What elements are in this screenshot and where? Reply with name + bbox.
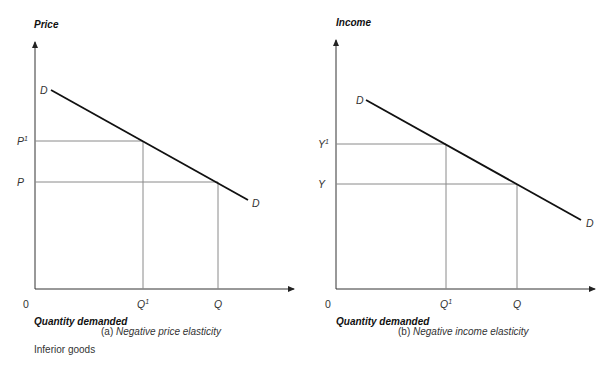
y-tick-y1: Y1 xyxy=(318,138,329,150)
figure-footnote: Inferior goods xyxy=(34,344,95,355)
x-tick-q: Q xyxy=(214,298,222,310)
panel-a-price-elasticity: Price D D P1 P 0 Q1 Q Quantity demanded … xyxy=(17,19,294,337)
demand-curve-start-label: D xyxy=(40,84,48,96)
origin-label: 0 xyxy=(23,298,29,310)
demand-curve-end-label: D xyxy=(252,197,260,209)
demand-curve xyxy=(51,90,248,200)
y-tick-p: P xyxy=(17,176,24,188)
demand-curve xyxy=(366,100,581,220)
y-axis-title-price: Price xyxy=(34,19,59,30)
demand-curve-end-label: D xyxy=(586,217,594,229)
x-tick-q: Q xyxy=(513,298,521,310)
y-tick-y: Y xyxy=(318,178,326,190)
caption-a: (a) Negative price elasticity xyxy=(101,326,222,337)
caption-b: (b) Negative income elasticity xyxy=(398,326,530,337)
inferior-goods-diagrams: Price D D P1 P 0 Q1 Q Quantity demanded … xyxy=(0,0,610,371)
x-tick-q1: Q1 xyxy=(137,298,149,310)
panel-b-income-elasticity: Income D D Y1 Y 0 Q1 Q Quantity demanded… xyxy=(318,17,595,337)
origin-label: 0 xyxy=(325,298,331,310)
x-tick-q1: Q1 xyxy=(440,298,452,310)
y-axis-title-income: Income xyxy=(336,17,371,28)
demand-curve-start-label: D xyxy=(356,94,364,106)
y-tick-p1: P1 xyxy=(17,135,28,147)
